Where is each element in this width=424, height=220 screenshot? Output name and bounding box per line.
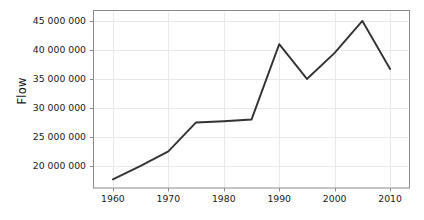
x-tick-label: 1990 xyxy=(256,194,302,203)
x-tick-label: 2000 xyxy=(312,194,358,203)
plot-border xyxy=(94,11,410,189)
x-tick-label: 2010 xyxy=(367,194,413,203)
data-series-line xyxy=(113,21,390,179)
x-axis-tick-labels: 196019701980199020002010 xyxy=(0,194,424,210)
plot-area xyxy=(0,0,424,220)
x-tick-label: 1970 xyxy=(145,194,191,203)
gridlines xyxy=(95,12,409,188)
x-tick-label: 1980 xyxy=(201,194,247,203)
x-tick-label: 1960 xyxy=(90,194,136,203)
line-chart-figure: Flow 20 000 00025 000 00030 000 00035 00… xyxy=(0,0,424,220)
